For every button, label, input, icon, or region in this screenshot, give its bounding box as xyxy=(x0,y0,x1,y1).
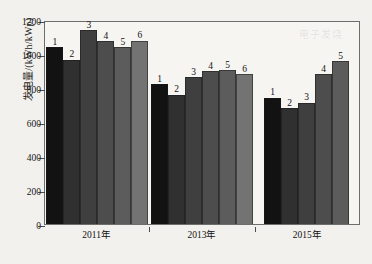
x-tick-mark xyxy=(149,227,150,232)
bar-set: 123456 xyxy=(151,22,253,224)
bar-label: 2 xyxy=(287,99,292,109)
bar[interactable]: 3 xyxy=(80,30,97,224)
bar-label: 2 xyxy=(174,85,179,95)
bar[interactable]: 1 xyxy=(46,47,63,224)
bar-label: 3 xyxy=(86,21,91,31)
plot-area: 电子发烧 020040060080010001200 1234561234561… xyxy=(44,21,360,225)
x-axis-labels: 2011年2013年2015年 xyxy=(44,227,360,241)
bar[interactable]: 6 xyxy=(131,41,148,224)
bar[interactable]: 5 xyxy=(332,61,349,224)
bar-label: 5 xyxy=(120,38,125,48)
bar-group-2015年: 12345 xyxy=(254,22,359,224)
y-tick-label: 800 xyxy=(27,85,41,95)
y-tick-label: 200 xyxy=(27,187,41,197)
bar-label: 6 xyxy=(242,65,247,75)
bar[interactable]: 3 xyxy=(185,77,202,224)
bar[interactable]: 2 xyxy=(168,95,185,224)
bar-group-2013年: 123456 xyxy=(150,22,255,224)
x-axis-label-2013年: 2013年 xyxy=(149,227,254,241)
y-tick-label: 1000 xyxy=(22,51,41,61)
bar[interactable]: 4 xyxy=(97,41,114,224)
y-tick-label: 1200 xyxy=(22,17,41,27)
bar[interactable]: 4 xyxy=(315,74,332,224)
bar-label: 2 xyxy=(69,50,74,60)
bar-groups: 12345612345612345 xyxy=(45,22,359,224)
bar-label: 5 xyxy=(225,61,230,71)
y-tick-label: 400 xyxy=(27,153,41,163)
bar-set: 12345 xyxy=(264,22,349,224)
bar[interactable]: 2 xyxy=(63,60,80,224)
y-tick-label: 0 xyxy=(36,221,41,231)
bar[interactable]: 5 xyxy=(219,70,236,224)
y-tick-label: 600 xyxy=(27,119,41,129)
bar[interactable]: 1 xyxy=(151,84,168,224)
x-axis-label-2015年: 2015年 xyxy=(255,227,360,241)
bar-group-2011年: 123456 xyxy=(45,22,150,224)
bar-label: 4 xyxy=(103,32,108,42)
bar-label: 6 xyxy=(137,31,142,41)
bar[interactable]: 4 xyxy=(202,71,219,224)
bar-set: 123456 xyxy=(46,22,148,224)
bar[interactable]: 2 xyxy=(281,108,298,224)
x-tick-mark xyxy=(255,227,256,232)
bar[interactable]: 5 xyxy=(114,47,131,224)
x-axis-label-2011年: 2011年 xyxy=(44,227,149,241)
bar-label: 3 xyxy=(304,93,309,103)
bar-label: 4 xyxy=(208,62,213,72)
bar-label: 1 xyxy=(270,88,275,98)
bar-chart: 发电量/(kWh/kWp) 电子发烧 020040060080010001200… xyxy=(0,0,372,264)
bar-label: 3 xyxy=(191,68,196,78)
bar[interactable]: 3 xyxy=(298,103,315,224)
bar-label: 1 xyxy=(157,75,162,85)
bar-label: 4 xyxy=(321,65,326,75)
bar[interactable]: 6 xyxy=(236,74,253,224)
bar[interactable]: 1 xyxy=(264,98,281,224)
bar-label: 1 xyxy=(52,38,57,48)
bar-label: 5 xyxy=(338,52,343,62)
